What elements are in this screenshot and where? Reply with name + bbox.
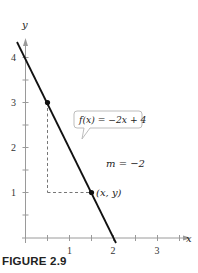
equation-callout: f(x) = −2x + 4 — [74, 111, 147, 139]
y-tick-label-2: 2 — [11, 142, 16, 153]
figure-2-9: x y 1 2 3 1 2 3 4 f(x) = −2x + 4 m = −2 … — [0, 0, 198, 273]
equation-label: f(x) = −2x + 4 — [78, 114, 147, 125]
x-tick-label-2: 2 — [111, 245, 116, 256]
x-tick-label-1: 1 — [67, 245, 72, 256]
y-axis-arrow-icon — [23, 38, 28, 46]
x-axis-label: x — [186, 233, 192, 244]
y-tick-label-4: 4 — [11, 52, 16, 63]
function-line — [17, 42, 116, 243]
point-x-y — [89, 190, 94, 195]
x-tick-label-3: 3 — [155, 245, 160, 256]
point-label: (x, y) — [96, 187, 122, 198]
slope-label: m = −2 — [106, 158, 145, 169]
y-tick-label-1: 1 — [11, 187, 16, 198]
point-half-three — [45, 100, 50, 105]
y-tick-label-3: 3 — [11, 97, 16, 108]
figure-caption: FIGURE 2.9 — [2, 255, 67, 267]
x-axis — [22, 235, 191, 241]
graph-canvas: x y 1 2 3 1 2 3 4 f(x) = −2x + 4 m = −2 … — [0, 0, 198, 273]
y-axis-label: y — [21, 19, 28, 30]
y-axis — [23, 38, 29, 243]
